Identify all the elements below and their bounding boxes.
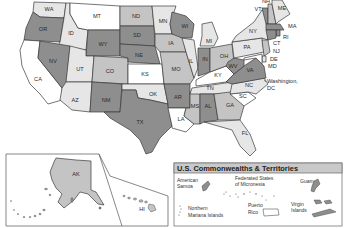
- label-la: LA: [178, 116, 185, 122]
- label-tn: TN: [206, 85, 213, 91]
- label-ak: AK: [72, 171, 80, 177]
- state-fl[interactable]: [204, 120, 256, 156]
- label-al: AL: [205, 103, 212, 109]
- northern-mariana-label-1: Northern: [188, 205, 208, 211]
- label-ky: KY: [214, 72, 222, 78]
- label-ia: IA: [168, 40, 174, 46]
- label-ma: MA: [288, 23, 297, 29]
- label-nj: NJ: [273, 48, 280, 54]
- label-in: IN: [202, 56, 208, 62]
- state-ny[interactable]: [232, 10, 268, 42]
- label-wy: WY: [98, 41, 107, 47]
- state-nj[interactable]: [262, 40, 270, 56]
- label-nd: ND: [132, 13, 140, 19]
- state-ct[interactable]: [266, 30, 276, 40]
- label-pa: PA: [243, 44, 250, 50]
- micronesia-label-2: of Micronesia: [235, 181, 265, 187]
- label-mi: MI: [206, 38, 213, 44]
- guam-label: Guam: [300, 178, 314, 184]
- label-sd: SD: [133, 32, 141, 38]
- label-wi: WI: [182, 23, 189, 29]
- label-va: VA: [246, 67, 253, 73]
- state-ri[interactable]: [276, 30, 280, 36]
- label-nh: NH: [262, 0, 270, 4]
- label-ar: AR: [174, 94, 182, 100]
- label-ga: GA: [226, 102, 234, 108]
- label-md: MD: [268, 63, 277, 69]
- label-fl: FL: [242, 130, 249, 136]
- label-il: IL: [189, 58, 194, 64]
- puerto-rico-label-2: Rico: [248, 209, 258, 215]
- label-mt: MT: [93, 13, 102, 19]
- label-wa: WA: [45, 6, 54, 12]
- label-mo: MO: [171, 66, 181, 72]
- state-ma[interactable]: [266, 24, 284, 30]
- label-co: CO: [106, 68, 115, 74]
- territories-title: U.S. Commonwealths & Territories: [177, 164, 298, 173]
- label-or: OR: [39, 26, 47, 32]
- label-nc: NC: [245, 82, 253, 88]
- northern-mariana-label-2: Mariana Islands: [188, 212, 224, 218]
- state-de[interactable]: [262, 56, 266, 62]
- label-ne: NE: [135, 52, 143, 58]
- label-ms: MS: [191, 103, 200, 109]
- label-nv: NV: [49, 58, 57, 64]
- label-vt: VT: [254, 6, 262, 12]
- label-ct: CT: [273, 40, 281, 46]
- us-map: WA OR CA ID NV MT WY UT AZ CO NM ND SD N…: [0, 0, 344, 228]
- puerto-rico-label-1: Puerto: [248, 202, 263, 208]
- label-me: ME: [278, 5, 287, 11]
- label-dc-2: DC: [267, 85, 275, 91]
- label-ut: UT: [76, 66, 84, 72]
- american-samoa-label-2: Samoa: [177, 183, 193, 189]
- label-wv: WV: [228, 63, 237, 69]
- label-sc: SC: [239, 93, 247, 99]
- virgin-islands-label-2: Islands: [291, 207, 307, 213]
- label-ks: KS: [141, 71, 149, 77]
- label-hi: HI: [139, 206, 145, 212]
- label-ri: RI: [283, 34, 289, 40]
- state-ak[interactable]: [50, 158, 104, 208]
- label-ok: OK: [149, 91, 157, 97]
- label-tx: TX: [136, 119, 143, 125]
- label-ny: NY: [249, 28, 257, 34]
- label-nm: NM: [102, 97, 111, 103]
- label-dc-1: Washington,: [267, 78, 298, 84]
- label-az: AZ: [71, 97, 79, 103]
- label-id: ID: [68, 30, 74, 36]
- label-mn: MN: [159, 18, 168, 24]
- label-ca: CA: [34, 76, 42, 82]
- label-oh: OH: [220, 53, 228, 59]
- label-de: DE: [270, 56, 278, 62]
- puerto-rico-shape[interactable]: [263, 209, 279, 216]
